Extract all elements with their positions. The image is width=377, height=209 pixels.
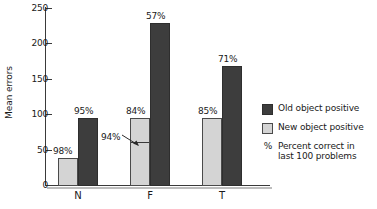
y-tick-label-200: 200	[22, 39, 48, 48]
bar-label-t-new-object: 85%	[198, 107, 217, 116]
legend-item-percent-note: % Percent correct in last 100 problems	[262, 141, 374, 161]
bar-f-new-object	[130, 118, 150, 186]
bar-n-new-object	[58, 158, 78, 186]
legend-label-new-object: New object positive	[278, 122, 374, 132]
legend-label-old-object: Old object positive	[278, 103, 374, 113]
legend-swatch-new-object-icon	[262, 123, 273, 134]
y-tick-label-50: 50	[22, 146, 48, 155]
category-label-f: F	[130, 191, 170, 201]
bar-f-old-object	[150, 23, 170, 186]
annotation-arrow-icon	[122, 134, 148, 148]
legend-item-old-object: Old object positive	[262, 103, 374, 116]
x-axis-shadow	[47, 187, 272, 189]
bar-label-f-old-object: 57%	[146, 12, 165, 21]
bar-label-t-old-object: 71%	[218, 55, 237, 64]
bar-t-old-object	[222, 66, 242, 186]
bar-t-new-object	[202, 118, 222, 186]
category-label-t: T	[202, 191, 242, 201]
bar-label-f-new-object: 84%	[126, 107, 145, 116]
annotation-label-f-94: 94%	[101, 133, 120, 142]
y-tick-label-0: 0	[22, 181, 48, 190]
bar-chart-figure: Mean errors 250 200 150 100 50 0 98% 95%…	[0, 0, 377, 209]
legend-note-line1: Percent correct in	[278, 141, 355, 151]
bar-label-n-old-object: 95%	[74, 107, 93, 116]
chart-legend: Old object positive New object positive …	[262, 103, 374, 167]
bar-label-n-new-object: 98%	[53, 147, 72, 156]
y-tick-label-150: 150	[22, 75, 48, 84]
y-axis-title: Mean errors	[5, 60, 14, 126]
category-label-n: N	[58, 191, 98, 201]
legend-item-new-object: New object positive	[262, 122, 374, 135]
y-tick-label-250: 250	[22, 4, 48, 13]
legend-percent-symbol-icon: %	[262, 141, 274, 152]
y-axis-line	[45, 7, 46, 186]
legend-note-text: Percent correct in last 100 problems	[278, 141, 374, 161]
bar-n-old-object	[78, 118, 98, 186]
legend-swatch-old-object-icon	[262, 104, 273, 115]
y-tick-label-100: 100	[22, 110, 48, 119]
legend-note-line2: last 100 problems	[278, 151, 357, 161]
